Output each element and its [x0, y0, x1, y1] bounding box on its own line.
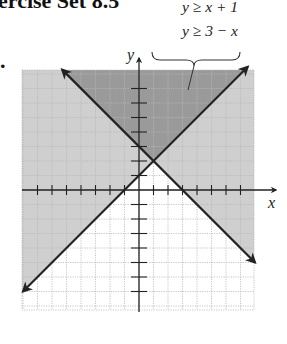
brace-icon: [152, 52, 240, 66]
x-axis-label: x: [267, 194, 275, 211]
y-axis-label: y: [125, 46, 135, 64]
inequality-graph: xy: [0, 0, 287, 344]
